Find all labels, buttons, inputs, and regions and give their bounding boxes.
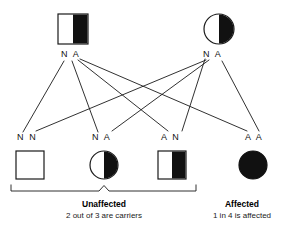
genotype-label-child-3: A N — [161, 133, 180, 142]
connector-line — [72, 61, 98, 132]
circle-filled-icon — [239, 151, 267, 179]
child-symbol-2 — [90, 151, 118, 179]
genotype-label-child-1: N N — [17, 133, 37, 142]
connector-line — [78, 60, 168, 131]
unaffected-group-title: Unaffected — [44, 199, 164, 210]
connector-line — [36, 60, 206, 131]
child-symbol-1 — [16, 151, 44, 179]
connector-line — [222, 61, 259, 131]
half-fill-shade — [73, 15, 87, 44]
inheritance-connector-lines — [23, 59, 259, 132]
unaffected-group-subtitle: 2 out of 3 are carriers — [44, 210, 164, 221]
half-fill-shade — [104, 151, 118, 178]
connector-line — [182, 59, 205, 131]
connector-line — [80, 59, 247, 131]
connector-line — [112, 60, 209, 131]
genotype-label-father: N A — [61, 50, 80, 59]
affected-group-title: Affected — [193, 199, 291, 210]
genotype-label-child-2: N A — [92, 133, 111, 142]
half-fill-shade — [219, 14, 234, 43]
child-symbol-4 — [239, 151, 267, 179]
pedigree-figure: N A N A N N N A A N A A Unaffected 2 out… — [0, 0, 294, 238]
affected-group-subtitle: 1 in 4 is affected — [193, 210, 291, 221]
unaffected-group-caption: Unaffected 2 out of 3 are carriers — [44, 199, 164, 221]
bracket-path — [11, 185, 196, 191]
half-fill-shade — [172, 152, 185, 179]
genotype-label-child-4: A A — [245, 133, 263, 142]
square-outline-icon — [16, 151, 44, 179]
unaffected-group-bracket — [11, 185, 196, 191]
affected-group-caption: Affected 1 in 4 is affected — [193, 199, 291, 221]
connector-line — [23, 61, 64, 132]
child-symbol-3 — [158, 151, 186, 179]
parent-symbol-mother — [204, 14, 234, 44]
parent-symbol-father — [58, 14, 88, 44]
genotype-label-mother: N A — [203, 50, 222, 59]
